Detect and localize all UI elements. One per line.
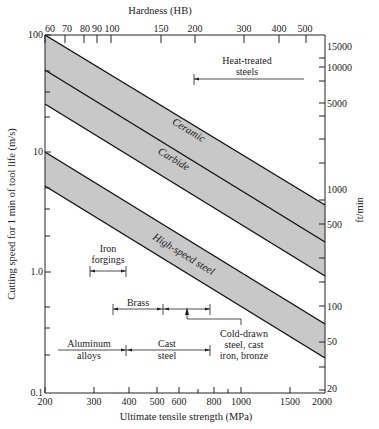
svg-text:100: 100 <box>327 301 342 312</box>
svg-text:10: 10 <box>33 146 43 157</box>
svg-text:Cast: Cast <box>158 338 176 349</box>
svg-text:100: 100 <box>28 29 43 40</box>
svg-text:1500: 1500 <box>280 396 300 407</box>
svg-text:400: 400 <box>122 396 137 407</box>
svg-text:steel, cast: steel, cast <box>225 339 264 350</box>
svg-text:70: 70 <box>62 23 72 34</box>
y-tick-labels: 0.1 1.0 10 100 <box>28 29 43 398</box>
x-ticks <box>45 387 290 393</box>
top-axis-title: Hardness (HB) <box>128 5 192 17</box>
svg-text:steels: steels <box>236 66 258 77</box>
svg-text:Heat-treated: Heat-treated <box>222 55 271 66</box>
svg-text:1000: 1000 <box>231 396 251 407</box>
svg-text:10000: 10000 <box>327 62 352 73</box>
svg-text:1.0: 1.0 <box>31 266 44 277</box>
svg-text:400: 400 <box>272 23 287 34</box>
bands <box>45 35 325 358</box>
svg-text:500: 500 <box>298 23 313 34</box>
svg-text:Aluminum: Aluminum <box>67 338 111 349</box>
svg-text:forgings: forgings <box>91 254 124 265</box>
svg-text:60: 60 <box>45 23 55 34</box>
svg-text:500: 500 <box>327 219 342 230</box>
svg-text:5000: 5000 <box>327 98 347 109</box>
svg-text:50: 50 <box>327 336 337 347</box>
svg-text:iron, bronze: iron, bronze <box>220 350 269 361</box>
svg-text:Brass: Brass <box>127 297 149 308</box>
svg-text:800: 800 <box>207 396 222 407</box>
svg-text:90: 90 <box>92 23 102 34</box>
svg-text:2000: 2000 <box>312 396 332 407</box>
top-ticks <box>45 35 306 43</box>
annotation-brass: Brass <box>113 297 163 315</box>
chart: 200 300 400 500 600 800 1000 1500 2000 U… <box>0 0 379 429</box>
svg-text:80: 80 <box>80 23 90 34</box>
annotation-heat-treated: Heat-treated steels <box>194 55 304 85</box>
svg-text:100: 100 <box>105 23 120 34</box>
svg-text:150: 150 <box>154 23 169 34</box>
svg-text:300: 300 <box>237 23 252 34</box>
svg-text:0.1: 0.1 <box>31 387 44 398</box>
annotation-aluminum: Aluminum alloys <box>58 338 126 361</box>
x-axis-title: Ultimate tensile strength (MPa) <box>120 411 253 423</box>
right-axis-title: ft/min <box>354 196 365 222</box>
y-axis-title: Cutting speed for 1 min of tool life (m/… <box>6 128 18 300</box>
svg-text:500: 500 <box>150 396 165 407</box>
svg-text:200: 200 <box>188 23 203 34</box>
svg-text:1000: 1000 <box>327 184 347 195</box>
svg-text:300: 300 <box>87 396 102 407</box>
annotation-iron-forgings: Iron forgings <box>90 243 126 277</box>
x-tick-labels: 200 300 400 500 600 800 1000 1500 2000 <box>38 396 333 407</box>
svg-text:600: 600 <box>172 396 187 407</box>
top-tick-labels: 60 70 80 90 100 150 200 300 400 500 <box>45 23 313 34</box>
right-tick-labels: 20 50 100 500 1000 5000 10000 15000 <box>327 41 352 394</box>
svg-text:Cold-drawn: Cold-drawn <box>220 328 268 339</box>
svg-text:20: 20 <box>327 383 337 394</box>
annotation-cast-steel: Cast steel <box>126 338 210 361</box>
svg-text:steel: steel <box>158 350 177 361</box>
svg-text:Iron: Iron <box>100 243 117 254</box>
svg-text:15000: 15000 <box>327 41 352 52</box>
svg-text:alloys: alloys <box>77 350 101 361</box>
